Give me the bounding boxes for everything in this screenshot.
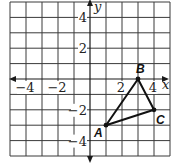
vertex-point-a — [104, 123, 109, 128]
x-tick-label: −2 — [47, 80, 66, 95]
vertex-label-b: B — [136, 62, 145, 76]
vertex-label-a: A — [93, 126, 103, 140]
y-tick-label: −4 — [68, 134, 87, 149]
coordinate-plane: −4−22442−2−4 x y ABC — [0, 0, 181, 165]
x-tick-label: 2 — [117, 80, 125, 95]
vertex-point-c — [152, 107, 157, 112]
vertex-label-c: C — [156, 113, 165, 127]
y-tick-label: −2 — [68, 103, 87, 118]
triangle-edges — [106, 79, 154, 125]
y-axis-bottom-arrow-icon — [87, 156, 93, 163]
y-axis-top-arrow-icon — [87, 0, 93, 6]
x-tick-label: −4 — [15, 80, 34, 95]
x-tick-label: 4 — [149, 80, 157, 95]
vertex-point-b — [136, 77, 141, 82]
y-tick-label: 4 — [79, 10, 87, 25]
x-axis-label: x — [162, 77, 170, 92]
y-axis-label: y — [93, 0, 102, 14]
y-tick-label: 2 — [79, 41, 87, 56]
